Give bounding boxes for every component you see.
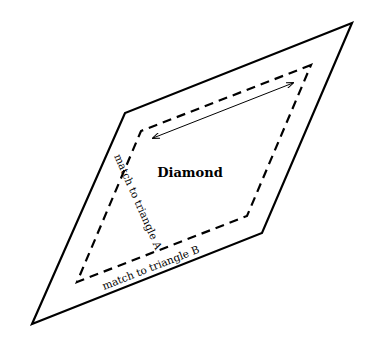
measurement-arrow xyxy=(153,83,293,138)
diamond-diagram: Diamond match to triangle A match to tri… xyxy=(0,0,366,345)
diamond-title: Diamond xyxy=(157,165,223,180)
label-triangle-b: match to triangle B xyxy=(100,243,201,292)
diagram-svg: Diamond match to triangle A match to tri… xyxy=(0,0,366,345)
